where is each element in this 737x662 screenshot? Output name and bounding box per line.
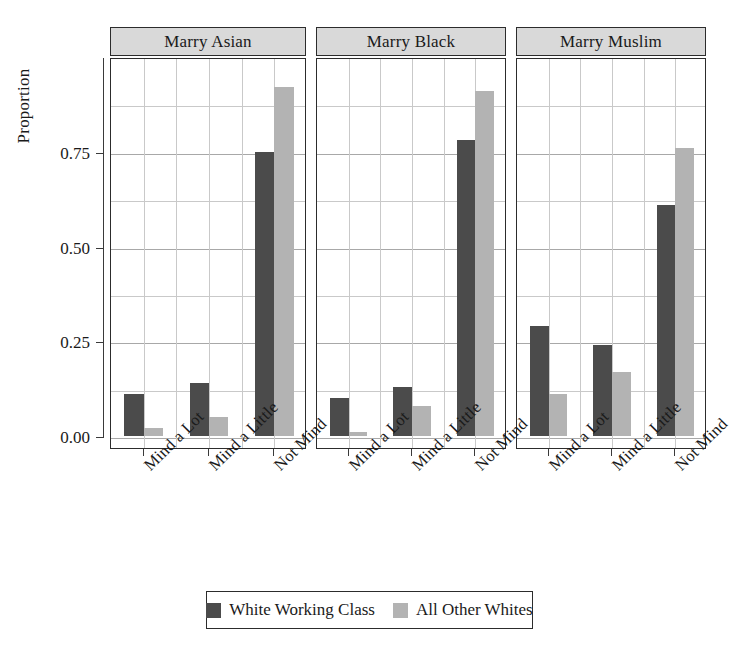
gridline-vertical-major [412,59,413,448]
x-axis-tick-mark [208,449,209,456]
gridline-horizontal-major [317,438,505,439]
legend-label: All Other Whites [416,600,533,620]
x-axis-tick-mark [611,449,612,456]
gridline-vertical-minor [176,59,177,448]
gridline-horizontal-major [517,438,705,439]
y-axis-tick-label: 0.25 [28,334,90,351]
facet-plot-area [516,58,706,449]
gridline-vertical-major [209,59,210,448]
y-axis-tick-mark [96,153,103,154]
bar [349,432,368,436]
gridline-vertical-major [349,59,350,448]
gridline-vertical-major [549,59,550,448]
gridline-horizontal-major [111,438,305,439]
x-axis-tick-mark [143,449,144,456]
legend-label: White Working Class [229,600,375,620]
bar [612,372,631,436]
y-axis-tick-label: 0.00 [28,429,90,446]
y-axis-tick-mark [96,342,103,343]
gridline-vertical-minor [644,59,645,448]
y-axis-tick-mark [96,437,103,438]
legend-swatch [393,603,408,618]
bar [475,91,494,436]
bar [274,87,293,436]
bar [255,152,274,436]
facet-plot-area [110,58,306,449]
bar [124,394,143,436]
bar [209,417,228,436]
bar [530,326,549,436]
facet-panel-title: Marry Muslim [516,27,706,56]
x-axis-tick-mark [348,449,349,456]
legend-item: All Other Whites [393,600,533,620]
y-axis-tick-labels: 0.750.500.250.00 [28,0,90,662]
bar [330,398,349,436]
gridline-vertical-minor [242,59,243,448]
gridline-vertical-minor [444,59,445,448]
bar [412,406,431,436]
facet-panel-title: Marry Asian [110,27,306,56]
chart-legend: White Working ClassAll Other Whites [206,591,533,629]
y-axis-tick-label: 0.75 [28,144,90,161]
bar [549,394,568,436]
facet-plot-area [316,58,506,449]
x-axis-tick-mark [548,449,549,456]
bar [457,140,476,436]
x-axis-tick-mark [411,449,412,456]
facet-panel-title: Marry Black [316,27,506,56]
legend-item: White Working Class [206,600,375,620]
y-axis-tick-mark [96,248,103,249]
gridline-horizontal-minor [517,106,705,107]
bar [144,428,163,436]
y-axis-line [103,58,104,438]
gridline-vertical-major [144,59,145,448]
gridline-vertical-minor [380,59,381,448]
legend-swatch [206,603,221,618]
gridline-vertical-minor [580,59,581,448]
bar [675,148,694,436]
y-axis-tick-label: 0.50 [28,239,90,256]
